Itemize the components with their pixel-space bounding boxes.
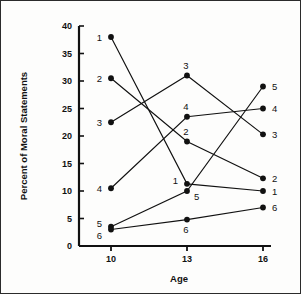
x-tick-label: 13: [182, 254, 192, 264]
data-point-series-3: [184, 73, 190, 79]
y-tick-label: 25: [62, 104, 72, 114]
point-label-1: 1: [97, 32, 102, 43]
data-point-series-6: [260, 205, 266, 211]
data-point-series-4: [108, 185, 114, 191]
data-point-series-6: [108, 227, 114, 233]
data-point-series-1: [260, 188, 266, 194]
series-line-4: [111, 109, 263, 189]
y-tick-label: 10: [62, 186, 72, 196]
point-label-5: 5: [272, 81, 277, 92]
y-tick-label: 20: [62, 131, 72, 141]
data-point-series-2: [108, 75, 114, 81]
axis-titles: AgePercent of Moral Statements: [18, 72, 188, 284]
x-tick-label: 16: [258, 254, 268, 264]
data-point-series-4: [184, 114, 190, 120]
data-point-series-3: [108, 119, 114, 125]
y-tick-label: 15: [62, 159, 72, 169]
point-label-4: 4: [272, 103, 277, 114]
point-label-4: 4: [183, 101, 188, 112]
point-label-3: 3: [97, 117, 102, 128]
y-tick-label: 5: [67, 214, 72, 224]
point-label-2: 2: [183, 126, 188, 137]
data-point-series-3: [260, 131, 266, 137]
point-label-2: 2: [272, 173, 277, 184]
point-label-1: 1: [272, 186, 277, 197]
x-axis-title: Age: [170, 273, 188, 284]
y-tick-label: 35: [62, 49, 72, 59]
point-label-6: 6: [183, 224, 188, 235]
data-point-series-2: [184, 139, 190, 145]
line-chart-canvas: 0510152025303540101316 12345634215654321…: [1, 1, 301, 294]
point-label-6: 6: [97, 230, 102, 241]
y-tick-label: 40: [62, 21, 72, 31]
point-label-3: 3: [272, 129, 277, 140]
x-tick-label: 10: [106, 254, 116, 264]
data-point-series-1: [184, 181, 190, 187]
data-point-series-1: [108, 34, 114, 40]
data-point-series-2: [260, 175, 266, 181]
point-label-5: 5: [194, 191, 199, 202]
point-label-1: 1: [173, 175, 178, 186]
point-label-4: 4: [97, 183, 102, 194]
data-point-series-5: [260, 84, 266, 90]
data-point-series-4: [260, 106, 266, 112]
point-label-5: 5: [97, 218, 102, 229]
point-label-6: 6: [272, 202, 277, 213]
data-point-series-5: [184, 188, 190, 194]
y-tick-label: 30: [62, 76, 72, 86]
chart-figure: 0510152025303540101316 12345634215654321…: [0, 0, 301, 294]
data-point-series-6: [184, 217, 190, 223]
y-tick-label: 0: [67, 241, 72, 251]
point-label-2: 2: [97, 73, 102, 84]
y-axis-title: Percent of Moral Statements: [18, 72, 29, 200]
axes: 0510152025303540101316: [62, 21, 271, 264]
point-label-3: 3: [183, 60, 188, 71]
